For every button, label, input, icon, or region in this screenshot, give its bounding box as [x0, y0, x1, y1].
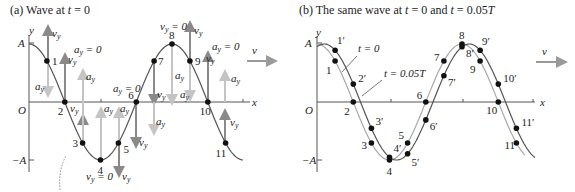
- dotted-pointer-arrow: [60, 156, 66, 190]
- svg-text:ay: ay: [231, 72, 241, 86]
- svg-text:ay: ay: [175, 69, 185, 83]
- wave-point-7: [151, 58, 157, 64]
- svg-text:vy: vy: [52, 27, 61, 41]
- curve-label-t0: t = 0: [358, 42, 380, 54]
- wave-point-t0-7: [441, 58, 447, 64]
- amplitude-label-b: A: [304, 37, 312, 49]
- svg-text:ay: ay: [156, 115, 166, 129]
- wave-point-t1-1: [332, 48, 338, 54]
- wave-point-t1-4: [387, 154, 393, 160]
- point-label-t0-6: 6: [417, 89, 423, 101]
- panel-b: (b) The same wave at t = 0 and t = 0.05T…: [299, 3, 562, 177]
- point-label-t0-1: 1: [326, 64, 332, 76]
- amplitude-label: A: [17, 37, 25, 49]
- point-label-4: 4: [98, 164, 104, 176]
- panel-b-title: (b) The same wave at t = 0 and t = 0.05T: [299, 3, 496, 17]
- point-label-t1-1: 1′: [337, 34, 345, 46]
- wave-point-t1-9: [477, 48, 483, 54]
- point-label-t1-11: 11′: [521, 116, 534, 128]
- wave-point-t0-2: [351, 99, 357, 105]
- wave-point-t0-1: [332, 58, 338, 64]
- svg-text:vy: vy: [68, 53, 77, 67]
- neg-amplitude-label: −A: [12, 154, 26, 166]
- wave-point-t1-6: [423, 117, 429, 123]
- y-axis-label: y: [28, 24, 34, 36]
- origin-label: O: [18, 104, 26, 116]
- panel-a: (a) Wave at t = 0 y x A −A O: [10, 3, 272, 190]
- point-label-t1-7: 7′: [448, 76, 456, 88]
- wave-point-t1-7: [441, 73, 447, 79]
- point-label-11: 11: [216, 147, 227, 159]
- point-label-2: 2: [58, 105, 64, 117]
- wave-point-11: [223, 140, 229, 146]
- point-label-t0-8: 8: [459, 29, 465, 41]
- point-label-5: 5: [123, 143, 129, 155]
- wave-point-3: [80, 140, 86, 146]
- svg-text:ay: ay: [180, 88, 190, 102]
- wave-point-t1-11: [514, 126, 520, 132]
- wave-point-t1-5: [405, 151, 411, 157]
- svg-text:vy: vy: [206, 52, 215, 66]
- wave-point-5: [116, 140, 122, 146]
- wave-point-t1-3: [369, 126, 375, 132]
- point-label-t0-11: 11: [504, 139, 515, 151]
- wave-velocity-label: v: [252, 44, 257, 56]
- point-label-7: 7: [158, 55, 164, 67]
- neg-amplitude-label-b: −A: [302, 154, 316, 166]
- point-label-t1-10: 10′: [503, 72, 516, 84]
- point-label-t1-4: 4′: [394, 142, 402, 154]
- point-label-9: 9: [195, 55, 201, 67]
- point-label-t1-8: 8′: [466, 47, 474, 59]
- svg-text:ay = 0: ay = 0: [74, 43, 102, 57]
- wave-point-4: [98, 157, 104, 163]
- point-label-t0-7: 7: [434, 51, 440, 63]
- wave-velocity-label-b: v: [542, 45, 547, 57]
- point-label-t0-5: 5: [399, 129, 405, 141]
- point-label-t0-9: 9: [470, 63, 476, 75]
- wave-point-t1-10: [496, 81, 502, 87]
- wave-point-t0-3: [369, 140, 375, 146]
- svg-text:vy: vy: [230, 116, 239, 130]
- wave-point-t0-5: [405, 140, 411, 146]
- wave-point-1: [44, 58, 50, 64]
- wave-point-6: [134, 99, 140, 105]
- point-label-t1-6: 6′: [430, 120, 438, 132]
- wave-point-t0-9: [477, 58, 483, 64]
- svg-text:vy: vy: [122, 170, 131, 184]
- wave-diagram: (a) Wave at t = 0 y x A −A O: [0, 0, 575, 192]
- wave-point-8: [169, 41, 175, 47]
- point-label-6: 6: [128, 89, 134, 101]
- point-label-t1-2: 2′: [358, 72, 366, 84]
- point-label-t0-4: 4: [387, 165, 393, 177]
- svg-text:ay: ay: [104, 102, 114, 116]
- point-label-8: 8: [169, 29, 175, 41]
- wave-point-t1-8: [459, 44, 465, 50]
- point-label-t1-3: 3′: [375, 115, 383, 127]
- point-label-t1-5: 5′: [412, 156, 420, 168]
- x-axis-label: x: [251, 96, 257, 108]
- point-label-1: 1: [52, 55, 58, 67]
- wave-point-t1-2: [351, 81, 357, 87]
- point-label-t0-10: 10: [486, 104, 498, 116]
- y-axis-label-b: y: [315, 26, 321, 38]
- point-label-3: 3: [73, 137, 79, 149]
- svg-text:vy: vy: [70, 102, 79, 116]
- svg-text:ay = 0: ay = 0: [113, 82, 141, 96]
- point-label-t0-2: 2: [344, 105, 350, 117]
- svg-text:ay: ay: [86, 70, 96, 84]
- point-label-t1-9: 9′: [482, 35, 490, 47]
- panel-a-title: (a) Wave at t = 0: [10, 3, 90, 17]
- svg-text:vy: vy: [139, 136, 148, 150]
- origin-label-b: O: [305, 104, 313, 116]
- point-label-t0-3: 3: [361, 139, 367, 151]
- wave-point-9: [187, 58, 193, 64]
- wave-point-t0-6: [423, 99, 429, 105]
- wave-point-2: [62, 99, 68, 105]
- svg-text:vy: vy: [194, 24, 203, 38]
- point-label-10: 10: [200, 105, 212, 117]
- svg-text:ay: ay: [35, 80, 45, 94]
- x-axis-label-b: x: [539, 96, 545, 108]
- svg-text:ay = 0: ay = 0: [212, 40, 240, 54]
- curve-label-t005T: t = 0.05T: [384, 67, 426, 79]
- svg-text:ay: ay: [120, 102, 130, 116]
